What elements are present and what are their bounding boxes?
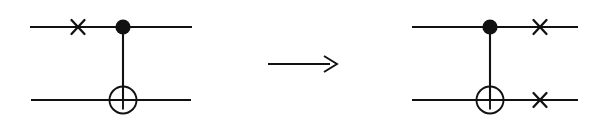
left-circuit <box>30 19 192 113</box>
right-circuit <box>412 19 578 113</box>
left-cnot-target-icon[interactable] <box>110 87 137 114</box>
right-cnot-target-icon[interactable] <box>477 87 504 114</box>
circuit-canvas <box>0 0 608 125</box>
right-control-dot-icon[interactable] <box>482 19 497 34</box>
quantum-circuit-identity-figure: Circuit identity: an X gate on the contr… <box>0 0 608 125</box>
left-control-dot-icon[interactable] <box>115 19 130 34</box>
implies-arrow-icon <box>268 56 337 72</box>
